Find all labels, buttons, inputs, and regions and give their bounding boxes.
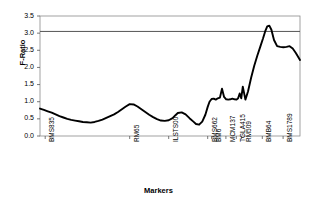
x-marker-label: RM509 bbox=[245, 121, 252, 142]
x-marker-label: MCM137 bbox=[229, 116, 236, 142]
x-axis-title: Markers bbox=[0, 186, 317, 195]
x-marker-label: BMB64 bbox=[265, 121, 272, 142]
y-tick-label: 0.5 bbox=[12, 114, 34, 121]
chart-figure: 0.00.51.01.52.02.53.03.5 BMS835RM65ILSTS… bbox=[0, 0, 317, 204]
x-marker-label: BMS835 bbox=[48, 117, 55, 142]
x-marker-label: BM6 bbox=[215, 129, 222, 142]
plot-border bbox=[40, 16, 300, 136]
y-axis-title: F-Ratio bbox=[18, 23, 27, 83]
y-tick-label: 1.0 bbox=[12, 97, 34, 104]
y-tick-label: 0.0 bbox=[12, 132, 34, 139]
x-marker-label: RM65 bbox=[133, 125, 140, 142]
line-chart-plot bbox=[0, 0, 317, 204]
y-tick-label: 3.5 bbox=[12, 12, 34, 19]
x-marker-label: BMS1789 bbox=[286, 113, 293, 142]
x-marker-label: ILSTS00 bbox=[172, 117, 179, 142]
y-axis-tick-marks bbox=[37, 16, 40, 136]
